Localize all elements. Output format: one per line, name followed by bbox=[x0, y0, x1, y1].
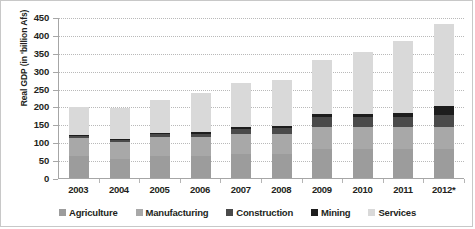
legend-item-label: Services bbox=[378, 207, 416, 218]
bar-segment-agriculture bbox=[110, 159, 130, 178]
bar-segment-services bbox=[393, 41, 413, 114]
bar-segment-services bbox=[353, 52, 373, 115]
bar-segment-services bbox=[231, 83, 251, 127]
bar-segment-manufacturing bbox=[272, 134, 292, 155]
x-tick-label: 2012* bbox=[423, 182, 464, 198]
bar-segment-agriculture bbox=[393, 149, 413, 178]
x-tick-mark bbox=[261, 179, 262, 183]
chart-figure: Real GDP (in 'billion Afs) 4504003503002… bbox=[0, 0, 473, 227]
bar-slot bbox=[59, 18, 100, 178]
x-tick-mark bbox=[342, 179, 343, 183]
stacked-bar[interactable] bbox=[353, 52, 373, 178]
x-tick-mark bbox=[464, 179, 465, 183]
bar-segment-manufacturing bbox=[393, 127, 413, 149]
legend-item-label: Mining bbox=[321, 207, 350, 218]
bar-slot bbox=[181, 18, 222, 178]
legend-item-label: Construction bbox=[236, 207, 293, 218]
x-tick-mark bbox=[99, 179, 100, 183]
stacked-bar[interactable] bbox=[231, 83, 251, 179]
bar-segment-construction bbox=[353, 117, 373, 127]
legend-item[interactable]: Services bbox=[368, 207, 416, 218]
bar-segment-manufacturing bbox=[434, 127, 454, 149]
x-tick-label: 2009 bbox=[302, 182, 343, 198]
bar-segment-services bbox=[110, 108, 130, 139]
bar-segment-manufacturing bbox=[353, 127, 373, 149]
legend-swatch-icon bbox=[59, 209, 66, 216]
stacked-bar[interactable] bbox=[312, 60, 332, 178]
bar-slot bbox=[343, 18, 384, 178]
bar-series-group bbox=[59, 18, 464, 178]
stacked-bar[interactable] bbox=[272, 80, 292, 178]
stacked-bar[interactable] bbox=[69, 107, 89, 178]
bar-segment-construction bbox=[434, 115, 454, 128]
stacked-bar[interactable] bbox=[150, 100, 170, 178]
bar-segment-services bbox=[191, 93, 211, 132]
legend-item[interactable]: Construction bbox=[226, 207, 293, 218]
bar-segment-construction bbox=[393, 117, 413, 128]
bar-segment-manufacturing bbox=[312, 127, 332, 149]
x-tick-label: 2011 bbox=[383, 182, 424, 198]
bar-segment-agriculture bbox=[312, 149, 332, 178]
stacked-bar[interactable] bbox=[434, 24, 454, 178]
legend-item-label: Manufacturing bbox=[146, 207, 209, 218]
y-tick-label: 300 bbox=[15, 67, 49, 77]
bar-segment-manufacturing bbox=[191, 137, 211, 156]
y-tick-label: 400 bbox=[15, 31, 49, 41]
bar-segment-mining bbox=[434, 106, 454, 114]
x-tick-mark bbox=[220, 179, 221, 183]
y-tick-label: 100 bbox=[15, 138, 49, 148]
y-tick-label: 250 bbox=[15, 85, 49, 95]
stacked-bar[interactable] bbox=[393, 41, 413, 178]
x-tick-label: 2006 bbox=[180, 182, 221, 198]
x-tick-label: 2010 bbox=[342, 182, 383, 198]
stacked-bar[interactable] bbox=[191, 93, 211, 178]
legend-swatch-icon bbox=[226, 209, 233, 216]
bar-slot bbox=[302, 18, 343, 178]
legend-item-label: Agriculture bbox=[69, 207, 117, 218]
bar-segment-services bbox=[434, 24, 454, 106]
y-tick-label: 150 bbox=[15, 120, 49, 130]
x-tick-label: 2003 bbox=[58, 182, 99, 198]
legend-item[interactable]: Manufacturing bbox=[136, 207, 209, 218]
x-tick-label: 2008 bbox=[261, 182, 302, 198]
x-axis-tick-labels: 2003200420052006200720082009201020112012… bbox=[58, 182, 464, 198]
bar-segment-manufacturing bbox=[69, 138, 89, 156]
legend-swatch-icon bbox=[368, 209, 375, 216]
x-tick-mark bbox=[302, 179, 303, 183]
bar-slot bbox=[262, 18, 303, 178]
stacked-bar[interactable] bbox=[110, 108, 130, 178]
x-tick-mark bbox=[383, 179, 384, 183]
x-tick-label: 2004 bbox=[99, 182, 140, 198]
bar-segment-services bbox=[312, 60, 332, 114]
bar-slot bbox=[424, 18, 465, 178]
y-tick-label: 200 bbox=[15, 102, 49, 112]
bar-segment-agriculture bbox=[191, 156, 211, 178]
x-tick-mark bbox=[139, 179, 140, 183]
legend-item[interactable]: Mining bbox=[311, 207, 350, 218]
x-tick-mark bbox=[180, 179, 181, 183]
bar-segment-services bbox=[150, 100, 170, 133]
y-tick-label: 350 bbox=[15, 49, 49, 59]
x-tick-mark bbox=[423, 179, 424, 183]
legend-swatch-icon bbox=[136, 209, 143, 216]
bar-segment-manufacturing bbox=[150, 137, 170, 156]
bar-segment-agriculture bbox=[69, 156, 89, 178]
bar-slot bbox=[221, 18, 262, 178]
plot-area bbox=[58, 18, 464, 179]
chart-legend: AgricultureManufacturingConstructionMini… bbox=[1, 204, 474, 220]
bar-segment-construction bbox=[312, 117, 332, 127]
legend-item[interactable]: Agriculture bbox=[59, 207, 117, 218]
y-tick-mark bbox=[53, 179, 58, 180]
bar-segment-agriculture bbox=[353, 149, 373, 178]
bar-segment-manufacturing bbox=[110, 142, 130, 160]
y-tick-label: 50 bbox=[15, 156, 49, 166]
bar-slot bbox=[140, 18, 181, 178]
legend-swatch-icon bbox=[311, 209, 318, 216]
bar-segment-services bbox=[272, 80, 292, 127]
bar-segment-agriculture bbox=[272, 154, 292, 178]
bar-segment-manufacturing bbox=[231, 134, 251, 155]
x-tick-label: 2005 bbox=[139, 182, 180, 198]
bar-segment-agriculture bbox=[231, 154, 251, 178]
x-tick-label: 2007 bbox=[220, 182, 261, 198]
bar-slot bbox=[100, 18, 141, 178]
